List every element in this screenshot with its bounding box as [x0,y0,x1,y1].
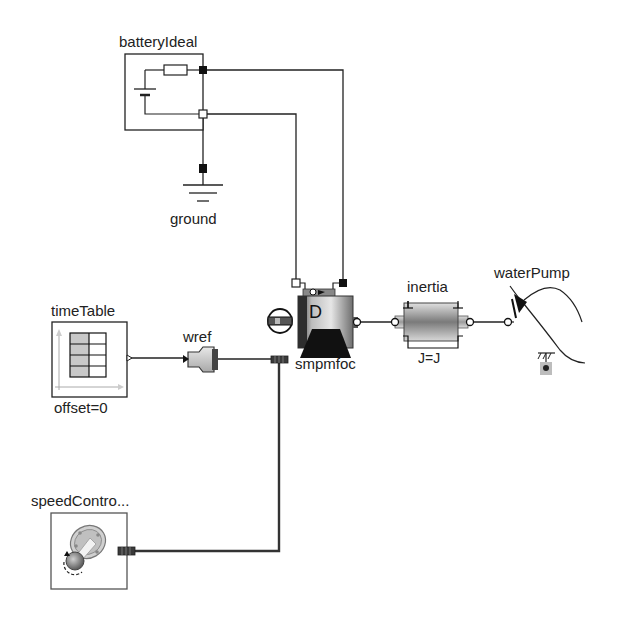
inertia-component[interactable] [392,301,474,348]
timetable-output-port[interactable] [127,355,132,361]
motor-port-n[interactable] [292,279,300,287]
speed-controller-component[interactable] [51,513,135,589]
wref-component[interactable] [183,347,218,372]
motor-flange-port[interactable] [354,319,361,326]
smpmfoc-label: smpmfoc [295,356,356,371]
bus-wire-speedcontroller[interactable] [135,362,279,551]
battery-port-n[interactable] [199,110,207,118]
time-table-label: timeTable [51,303,115,318]
battery-ideal-label: batteryIdeal [119,34,197,49]
wref-label: wref [183,329,211,344]
speed-controller-label: speedContro... [31,493,129,508]
speed-controller-bus-port[interactable] [118,547,135,555]
wire-battery-p-to-motor[interactable] [203,70,343,283]
motor-port-p[interactable] [339,279,347,287]
pump-arrow-icon [514,294,527,313]
smpmfoc-motor-component[interactable]: D [268,279,361,358]
water-pump-label: waterPump [494,265,570,280]
inverter-symbol-icon [268,309,292,333]
pump-flange-port[interactable] [505,319,512,326]
time-table-offset-param: offset=0 [54,400,108,415]
bus-connector[interactable] [271,356,288,363]
inertia-flange-b[interactable] [467,319,474,326]
time-table-component[interactable] [52,322,132,397]
wire-battery-n-to-motor[interactable] [203,114,296,283]
water-pump-component[interactable] [505,286,586,375]
ground-port[interactable] [199,164,207,173]
inertia-flange-a[interactable] [392,319,399,326]
inertia-label: inertia [407,279,448,294]
ground-label: ground [170,211,217,226]
inertia-j-param: J=J [418,351,440,365]
motor-letter: D [309,302,322,322]
battery-ideal-component[interactable] [125,54,207,130]
battery-port-p[interactable] [199,66,207,74]
resistor-icon [164,65,187,75]
